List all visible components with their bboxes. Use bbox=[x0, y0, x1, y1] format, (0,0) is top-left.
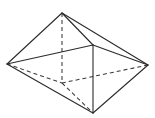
edge-left-to-bottom-apex bbox=[7, 64, 93, 113]
edge-right-to-bottom-apex bbox=[93, 65, 148, 113]
edge-right-to-base-back bbox=[62, 65, 148, 83]
geometry-figure-canvas bbox=[0, 0, 155, 118]
edge-left-to-base-front-right bbox=[7, 45, 93, 64]
hidden-edges-group bbox=[7, 13, 148, 113]
edge-apex-to-left bbox=[7, 13, 62, 64]
edge-apex-to-right bbox=[62, 13, 148, 65]
bipyramid-wireframe-svg bbox=[0, 0, 155, 118]
